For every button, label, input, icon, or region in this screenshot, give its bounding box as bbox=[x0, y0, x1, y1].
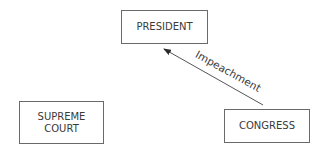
node-supreme-court-label-line1: SUPREME bbox=[38, 111, 86, 123]
node-president: PRESIDENT bbox=[121, 10, 208, 44]
node-president-label: PRESIDENT bbox=[136, 21, 192, 33]
node-congress-label: CONGRESS bbox=[239, 120, 295, 132]
node-congress: CONGRESS bbox=[224, 109, 310, 143]
node-supreme-court: SUPREME COURT bbox=[19, 101, 104, 144]
node-supreme-court-label-line2: COURT bbox=[44, 123, 79, 135]
